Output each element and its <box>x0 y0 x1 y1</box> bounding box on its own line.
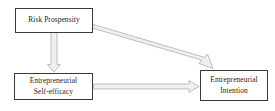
node-entrepreneurial-intention: Entrepreneurial Intention <box>200 70 268 101</box>
arrow-risk-to-self-efficacy <box>48 33 61 73</box>
arrow-self-efficacy-to-intention-shape <box>94 81 200 93</box>
arrow-risk-to-self-efficacy-shape <box>48 33 61 73</box>
arrow-risk-to-intention <box>92 25 213 69</box>
node-risk-propensity: Risk Prospensity <box>15 8 93 33</box>
node-entrepreneurial-self-efficacy-label: Entrepreneurial Self-efficacy <box>28 76 79 96</box>
conceptual-model-diagram: Risk Prospensity Entrepreneurial Self-ef… <box>0 0 275 111</box>
node-risk-propensity-label: Risk Prospensity <box>26 15 82 25</box>
node-entrepreneurial-self-efficacy: Entrepreneurial Self-efficacy <box>14 73 93 100</box>
arrow-self-efficacy-to-intention <box>94 81 200 93</box>
arrow-risk-to-intention-shape <box>92 25 213 69</box>
node-entrepreneurial-intention-label: Entrepreneurial Intention <box>208 75 259 95</box>
